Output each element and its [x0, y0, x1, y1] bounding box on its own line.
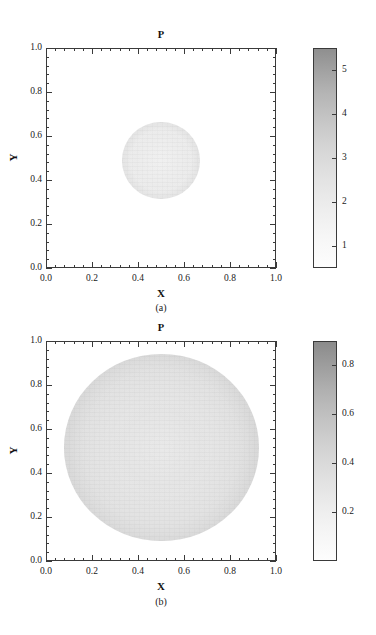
axis-tick	[166, 341, 167, 344]
colorbar-tick-label: 5	[342, 65, 347, 75]
axis-tick	[248, 265, 249, 268]
axis-tick	[110, 341, 111, 344]
axis-tick	[46, 250, 49, 251]
axis-tick	[267, 265, 268, 268]
x-tick-label: 0.8	[215, 274, 245, 284]
droplet-region-b	[64, 354, 259, 541]
axis-tick	[166, 558, 167, 561]
axis-tick	[46, 145, 49, 146]
figure-panel-b: P 0.00.20.40.60.81.0 0.00.20.40.60.81.0 …	[0, 320, 376, 635]
axis-tick	[46, 403, 49, 404]
colorbar-tick	[332, 365, 336, 366]
axis-tick	[46, 482, 49, 483]
x-axis-title-b: X	[46, 581, 276, 592]
axis-tick	[221, 265, 222, 268]
axis-tick	[83, 265, 84, 268]
axis-tick	[273, 552, 276, 553]
axis-tick	[74, 265, 75, 268]
axis-tick	[46, 259, 49, 260]
axis-tick	[129, 265, 130, 268]
axis-tick	[46, 473, 52, 474]
axis-tick	[212, 558, 213, 561]
axis-tick	[202, 341, 203, 344]
axis-tick	[46, 92, 52, 93]
axis-tick	[147, 265, 148, 268]
axis-tick	[273, 127, 276, 128]
axis-tick	[267, 341, 268, 344]
axis-tick	[46, 233, 49, 234]
axis-tick	[258, 265, 259, 268]
axis-tick	[46, 206, 49, 207]
axis-tick	[120, 341, 121, 344]
figure-panel-a: P 0.00.20.40.60.81.0 0.00.20.40.60.81.0 …	[0, 0, 376, 320]
axis-tick	[147, 558, 148, 561]
colorbar-tick	[332, 512, 336, 513]
axis-tick	[239, 558, 240, 561]
axis-tick	[46, 215, 49, 216]
axis-tick	[221, 341, 222, 344]
axis-tick	[273, 526, 276, 527]
axis-tick	[138, 48, 139, 54]
axis-tick	[46, 447, 49, 448]
field-noise-a	[122, 122, 200, 199]
axis-tick	[46, 420, 49, 421]
colorbar-tick	[332, 158, 336, 159]
axis-tick	[46, 180, 52, 181]
axis-tick	[74, 48, 75, 51]
axis-tick	[270, 136, 276, 137]
colorbar-tick-label: 3	[342, 153, 347, 163]
axis-tick	[258, 558, 259, 561]
axis-tick	[270, 180, 276, 181]
axis-tick	[129, 48, 130, 51]
axis-tick	[193, 341, 194, 344]
axis-tick	[147, 48, 148, 51]
colorbar-tick-label: 1	[342, 241, 347, 251]
axis-tick	[270, 473, 276, 474]
panel-caption-a: (a)	[46, 303, 276, 313]
axis-tick	[273, 491, 276, 492]
axis-tick	[212, 265, 213, 268]
axis-tick	[46, 198, 49, 199]
x-axis-title-a: X	[46, 288, 276, 299]
axis-tick	[46, 517, 52, 518]
y-axis-title-b: Y	[8, 441, 19, 461]
x-tick-label: 0.2	[77, 567, 107, 577]
axis-tick	[46, 464, 49, 465]
axis-tick	[258, 341, 259, 344]
axis-tick	[46, 411, 49, 412]
axis-tick	[273, 110, 276, 111]
axis-tick	[156, 48, 157, 51]
axis-tick	[230, 555, 231, 561]
axis-tick	[273, 74, 276, 75]
y-tick-label: 0.4	[14, 175, 42, 185]
axis-tick	[46, 110, 49, 111]
axis-tick	[276, 48, 277, 54]
axis-tick	[273, 359, 276, 360]
axis-tick	[267, 48, 268, 51]
axis-tick	[46, 189, 49, 190]
axis-tick	[46, 394, 49, 395]
axis-tick	[74, 341, 75, 344]
axis-tick	[273, 367, 276, 368]
axis-tick	[46, 429, 52, 430]
axis-tick	[120, 265, 121, 268]
axis-tick	[273, 242, 276, 243]
colorbar-tick-label: 0.4	[342, 458, 354, 468]
axis-tick	[92, 555, 93, 561]
axis-tick	[46, 162, 49, 163]
axis-tick	[55, 265, 56, 268]
axis-tick	[46, 136, 52, 137]
axis-tick	[248, 48, 249, 51]
y-tick-label: 0.4	[14, 468, 42, 478]
axis-tick	[101, 48, 102, 51]
y-tick-label: 0.6	[14, 131, 42, 141]
axis-tick	[202, 558, 203, 561]
axis-tick	[230, 262, 231, 268]
axis-tick	[46, 455, 49, 456]
axis-tick	[101, 265, 102, 268]
axis-tick	[193, 265, 194, 268]
axis-tick	[248, 341, 249, 344]
axis-tick	[273, 101, 276, 102]
axis-tick	[270, 341, 276, 342]
field-noise-b	[64, 354, 259, 541]
